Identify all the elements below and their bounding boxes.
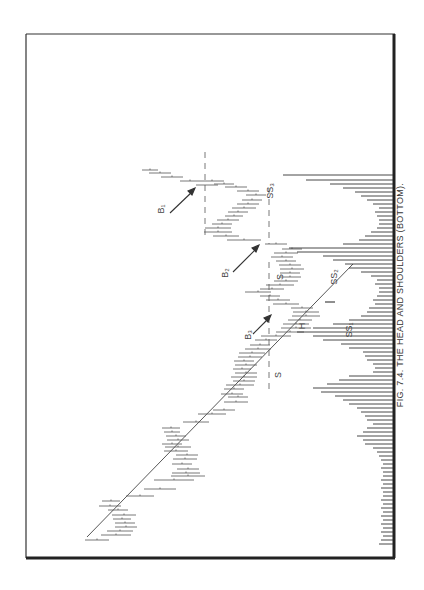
label-head: H <box>297 323 307 330</box>
label-shoulder-right: S <box>275 274 285 280</box>
label-b1: B₁ <box>156 204 166 213</box>
chart-figure <box>0 0 424 590</box>
volume-bars <box>283 175 393 544</box>
figure-caption: FIG. 7.4. THE HEAD AND SHOULDERS (BOTTOM… <box>395 183 405 407</box>
label-b3: B₃ <box>243 330 253 340</box>
label-shoulder-left: S <box>273 372 283 378</box>
label-ss3: SS₃ <box>265 183 275 199</box>
label-b2: B₂ <box>220 268 230 278</box>
neckline-dashed <box>205 152 269 390</box>
chart-frame <box>26 34 395 558</box>
price-bars <box>85 169 320 541</box>
label-ss1: SS₁ <box>344 322 354 337</box>
label-ss2: SS₂ <box>329 269 339 285</box>
